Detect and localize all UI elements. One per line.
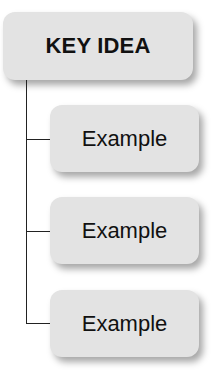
tree-trunk-connector: [26, 80, 27, 324]
key-idea-box: KEY IDEA: [3, 12, 193, 80]
branch-connector-3: [26, 323, 50, 324]
example-label: Example: [82, 126, 168, 152]
example-label: Example: [82, 311, 168, 337]
branch-connector-2: [26, 231, 50, 232]
example-box-3: Example: [50, 290, 199, 357]
example-box-2: Example: [50, 197, 199, 264]
example-label: Example: [82, 218, 168, 244]
key-idea-label: KEY IDEA: [45, 33, 150, 59]
example-box-1: Example: [50, 105, 199, 172]
branch-connector-1: [26, 139, 50, 140]
